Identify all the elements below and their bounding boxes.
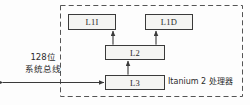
processor-title-label: Itanium 2 处理器	[168, 75, 233, 86]
cache-box-l3[interactable]: L3	[105, 75, 165, 90]
cache-box-l2[interactable]: L2	[105, 45, 165, 60]
cache-box-l1d[interactable]: L1D	[145, 14, 193, 30]
system-bus-width-text: 128位	[12, 52, 74, 64]
system-bus-name-text: 系统总线	[12, 64, 74, 76]
cache-box-l3-label: L3	[130, 78, 140, 88]
cache-box-l1i-label: L1I	[85, 17, 98, 27]
cache-box-l1i[interactable]: L1I	[68, 14, 116, 30]
diagram-canvas: L1I L1D L2 L3 128位 系统总线 Itanium 2 处理器	[0, 0, 250, 105]
cache-box-l2-label: L2	[130, 48, 140, 58]
system-bus-label: 128位 系统总线	[12, 52, 74, 75]
cache-box-l1d-label: L1D	[161, 17, 177, 27]
